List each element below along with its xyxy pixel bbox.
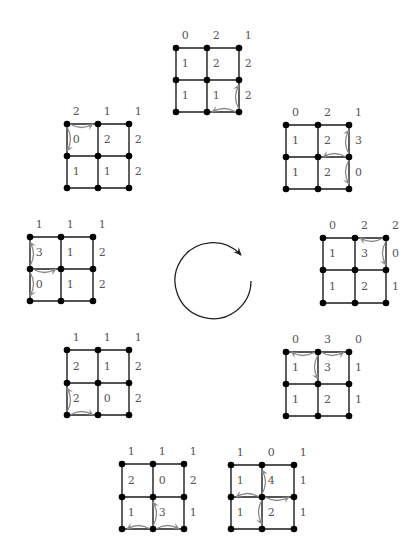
- grid-node: [173, 45, 180, 52]
- chip-count-label: 1: [135, 331, 142, 344]
- grid-node: [283, 413, 290, 420]
- diagram-canvas: 0211221120211231200221301210301311211011…: [0, 0, 419, 560]
- chip-count-label: 2: [324, 134, 331, 147]
- chip-count-label: 1: [182, 57, 189, 70]
- grid-node: [236, 45, 243, 52]
- grid-node: [204, 77, 211, 84]
- grid-node: [126, 121, 133, 128]
- grid-node: [173, 109, 180, 116]
- grid-node: [320, 235, 327, 242]
- grid-node: [346, 349, 353, 356]
- chip-count-label: 1: [104, 360, 111, 373]
- grid-node: [126, 153, 133, 160]
- grid-node: [126, 380, 133, 387]
- grid-node: [291, 526, 298, 533]
- grid-node: [27, 298, 34, 305]
- grid-node: [64, 380, 71, 387]
- grid-node: [315, 122, 322, 129]
- grid-node: [236, 77, 243, 84]
- chip-count-label: 1: [67, 278, 74, 291]
- chip-count-label: 3: [159, 506, 166, 519]
- grid-right: 022130121: [320, 219, 399, 306]
- grid-node: [181, 526, 188, 533]
- grid-node: [126, 185, 133, 192]
- grid-node: [315, 186, 322, 193]
- grid-node: [315, 349, 322, 356]
- chip-count-label: 2: [135, 360, 142, 373]
- chip-count-label: 1: [237, 506, 244, 519]
- chip-count-label: 2: [361, 280, 368, 293]
- grid-node: [283, 122, 290, 129]
- chip-count-label: 1: [329, 280, 336, 293]
- chip-count-label: 1: [355, 361, 362, 374]
- chip-count-label: 2: [361, 219, 368, 232]
- grid-node: [228, 462, 235, 469]
- chip-count-label: 0: [268, 446, 275, 459]
- chip-count-label: 0: [292, 333, 299, 346]
- grid-node: [95, 347, 102, 354]
- chip-count-label: 2: [324, 106, 331, 119]
- chip-count-label: 2: [99, 278, 106, 291]
- grid-node: [119, 461, 126, 468]
- chip-count-label: 1: [190, 506, 197, 519]
- grid-node: [315, 413, 322, 420]
- grid-node: [90, 266, 97, 273]
- grid-node: [173, 77, 180, 84]
- grid-node: [283, 154, 290, 161]
- grid-node: [204, 109, 211, 116]
- chip-count-label: 2: [73, 360, 80, 373]
- grid-node: [204, 45, 211, 52]
- chip-count-label: 1: [104, 165, 111, 178]
- grid-node: [126, 347, 133, 354]
- grid-node: [64, 347, 71, 354]
- cycle-arrow-path: [175, 243, 251, 319]
- grid-node: [259, 494, 266, 501]
- chip-count-label: 0: [355, 333, 362, 346]
- chip-count-label: 1: [190, 445, 197, 458]
- chip-count-label: 0: [104, 392, 111, 405]
- chip-count-label: 3: [361, 247, 368, 260]
- grid-node: [64, 153, 71, 160]
- chip-count-label: 1: [300, 446, 307, 459]
- grids-layer: 0211221120211231200221301210301311211011…: [27, 29, 399, 532]
- grid-lower-right: 030131121: [283, 333, 362, 419]
- chip-count-label: 1: [67, 246, 74, 259]
- grid-node: [228, 494, 235, 501]
- grid-node: [95, 121, 102, 128]
- grid-node: [352, 267, 359, 274]
- chip-count-label: 3: [324, 333, 331, 346]
- chip-count-label: 2: [99, 246, 106, 259]
- grid-node: [150, 526, 157, 533]
- grid-node: [181, 494, 188, 501]
- chip-count-label: 2: [213, 57, 220, 70]
- grid-node: [95, 153, 102, 160]
- grid-node: [236, 109, 243, 116]
- grid-node: [58, 266, 65, 273]
- grid-bottom-left: 111202131: [119, 445, 197, 532]
- chip-count-label: 2: [245, 89, 252, 102]
- grid-node: [315, 154, 322, 161]
- grid-node: [58, 298, 65, 305]
- chip-count-label: 1: [237, 474, 244, 487]
- chip-count-label: 2: [135, 133, 142, 146]
- chip-count-label: 1: [355, 393, 362, 406]
- grid-node: [346, 186, 353, 193]
- grid-bottom-right: 101141121: [228, 446, 307, 532]
- grid-node: [119, 526, 126, 533]
- grid-node: [64, 121, 71, 128]
- grid-node: [181, 461, 188, 468]
- chip-count-label: 1: [355, 106, 362, 119]
- grid-node: [150, 494, 157, 501]
- grid-node: [228, 526, 235, 533]
- chip-count-label: 2: [73, 392, 80, 405]
- grid-node: [90, 234, 97, 241]
- chip-count-label: 3: [324, 361, 331, 374]
- chip-count-label: 1: [67, 218, 74, 231]
- chip-count-label: 1: [128, 445, 135, 458]
- grid-node: [27, 234, 34, 241]
- grid-node: [320, 300, 327, 307]
- chip-count-label: 0: [292, 106, 299, 119]
- chip-count-label: 1: [104, 331, 111, 344]
- chip-count-label: 0: [182, 29, 189, 42]
- chip-count-label: 0: [73, 133, 80, 146]
